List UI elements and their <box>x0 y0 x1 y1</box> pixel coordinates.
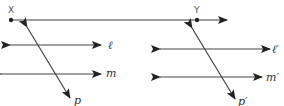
right-figure: ℓ′ m′ p′ <box>160 28 280 106</box>
point-y <box>195 18 199 22</box>
left-figure: ℓ m p <box>1 27 116 106</box>
line-l-label: ℓ <box>108 39 113 52</box>
transversal-p <box>27 27 70 98</box>
transversal-p-label: p <box>74 94 81 106</box>
point-x <box>9 18 13 22</box>
point-x-label: X <box>8 5 14 15</box>
point-y-label: Y <box>193 5 200 15</box>
ray-xy: X Y <box>8 5 227 22</box>
line-l-prime-label: ℓ′ <box>272 43 280 56</box>
transversal-p-prime-label: p′ <box>238 95 248 106</box>
line-m-label: m <box>106 67 116 80</box>
geometry-diagram: X Y ℓ m p ℓ′ m′ p′ <box>0 0 284 106</box>
line-m-prime-label: m′ <box>266 71 279 84</box>
transversal-p-prime <box>192 28 235 99</box>
